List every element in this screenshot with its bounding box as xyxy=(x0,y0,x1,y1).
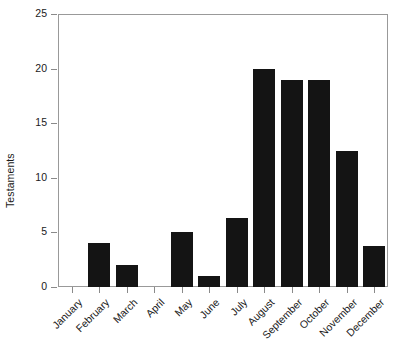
y-axis-tick-label: 25 xyxy=(35,7,47,19)
x-axis-tick-mark xyxy=(374,287,375,293)
x-axis-tick-mark xyxy=(182,287,183,293)
bar xyxy=(198,276,220,287)
y-axis-tick-mark xyxy=(51,287,57,288)
x-axis-tick-mark xyxy=(319,287,320,293)
x-axis-tick-mark xyxy=(237,287,238,293)
y-axis-tick-mark xyxy=(51,232,57,233)
x-axis-tick-mark xyxy=(292,287,293,293)
bar xyxy=(116,265,138,287)
bar xyxy=(336,151,358,288)
x-axis-tick-mark xyxy=(347,287,348,293)
x-axis-tick-mark xyxy=(264,287,265,293)
y-axis-tick-label: 15 xyxy=(35,116,47,128)
y-axis-tick-label: 10 xyxy=(35,171,47,183)
y-axis-tick-mark xyxy=(51,178,57,179)
bar xyxy=(226,218,248,287)
x-axis-tick-mark xyxy=(99,287,100,293)
bar xyxy=(308,80,330,287)
bar-chart: Testaments 0510152025 JanuaryFebruaryMar… xyxy=(0,0,405,341)
bar xyxy=(281,80,303,287)
y-axis-tick-mark xyxy=(51,123,57,124)
x-axis-tick-mark xyxy=(72,287,73,293)
bar xyxy=(171,232,193,287)
y-axis-tick-mark xyxy=(51,14,57,15)
bar xyxy=(363,246,385,287)
bar xyxy=(88,243,110,287)
x-axis-tick-mark xyxy=(127,287,128,293)
y-axis-tick-label: 5 xyxy=(41,225,47,237)
x-axis-tick-mark xyxy=(209,287,210,293)
bar xyxy=(253,69,275,287)
y-axis-tick-label: 20 xyxy=(35,62,47,74)
bars-layer xyxy=(58,14,388,287)
y-axis-tick-label: 0 xyxy=(41,280,47,292)
y-axis-tick-mark xyxy=(51,69,57,70)
x-axis-tick-mark xyxy=(154,287,155,293)
